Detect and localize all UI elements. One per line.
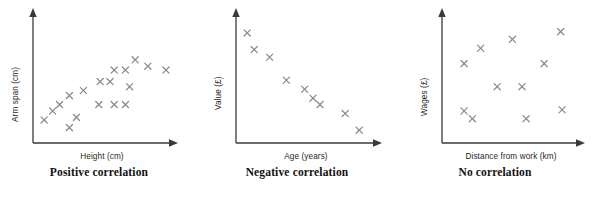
x-axis — [33, 139, 178, 146]
data-point-marker — [461, 61, 467, 67]
y-axis — [29, 8, 36, 143]
data-point-marker — [145, 63, 151, 69]
x-axis-label: Distance from work (km) — [465, 152, 556, 161]
data-point-marker — [523, 116, 529, 122]
caption-negative-correlation: Negative correlation — [198, 166, 396, 178]
data-point-marker — [122, 102, 128, 108]
data-point-marker — [541, 61, 547, 67]
data-point-marker — [558, 29, 564, 35]
y-axis-label: Value (£) — [214, 76, 223, 110]
panel-no-correlation: Wages (£) Distance from work (km) No cor… — [396, 0, 594, 199]
data-point-marker — [509, 36, 515, 42]
x-axis — [236, 139, 382, 146]
data-points-positive — [41, 57, 169, 131]
scatter-plot-none: Wages (£) Distance from work (km) — [396, 0, 594, 165]
y-axis — [232, 8, 239, 143]
data-point-marker — [469, 116, 475, 122]
panel-negative-correlation: Value (£) Age (years) Negative correlati… — [198, 0, 396, 199]
data-point-marker — [302, 86, 308, 92]
data-point-marker — [80, 87, 86, 93]
x-axis-label: Age (years) — [284, 152, 328, 161]
data-point-marker — [111, 67, 117, 73]
x-axis-label: Height (cm) — [80, 152, 124, 161]
data-point-marker — [107, 78, 113, 84]
panel-positive-correlation: Arm span (cm) Height (cm) Positive corre… — [0, 0, 198, 199]
scatter-plot-negative: Value (£) Age (years) — [198, 0, 396, 165]
data-point-marker — [461, 108, 467, 114]
data-point-marker — [494, 84, 500, 90]
x-axis — [442, 139, 585, 146]
data-point-marker — [50, 108, 56, 114]
data-point-marker — [66, 93, 72, 99]
data-point-marker — [97, 78, 103, 84]
data-point-marker — [111, 102, 117, 108]
data-point-marker — [342, 110, 348, 116]
correlation-figure: Arm span (cm) Height (cm) Positive corre… — [0, 0, 594, 199]
data-point-marker — [96, 102, 102, 108]
data-point-marker — [244, 30, 250, 36]
caption-positive-correlation: Positive correlation — [0, 166, 198, 178]
data-point-marker — [317, 102, 323, 108]
data-point-marker — [57, 102, 63, 108]
y-axis-label: Arm span (cm) — [11, 67, 20, 122]
data-point-marker — [251, 46, 257, 52]
data-points-none — [461, 29, 565, 122]
data-point-marker — [73, 114, 79, 120]
data-point-marker — [519, 84, 525, 90]
data-point-marker — [132, 57, 138, 63]
y-axis — [438, 8, 445, 143]
data-point-marker — [163, 67, 169, 73]
data-point-marker — [356, 127, 362, 133]
scatter-plot-positive: Arm span (cm) Height (cm) — [0, 0, 198, 165]
data-point-marker — [127, 84, 133, 90]
data-point-marker — [66, 125, 72, 131]
caption-no-correlation: No correlation — [396, 166, 594, 178]
data-point-marker — [122, 67, 128, 73]
data-point-marker — [559, 107, 565, 113]
data-point-marker — [267, 54, 273, 60]
data-point-marker — [41, 117, 47, 123]
y-axis-label: Wages (£) — [420, 77, 429, 116]
data-point-marker — [283, 77, 289, 83]
data-points-negative — [244, 30, 362, 133]
data-point-marker — [310, 95, 316, 101]
data-point-marker — [478, 45, 484, 51]
